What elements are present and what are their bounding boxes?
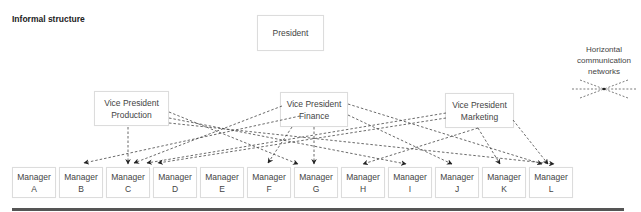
arrow-prod-to-i bbox=[169, 118, 406, 164]
arrow-mkt-to-k bbox=[478, 128, 500, 164]
arrow-mkt-to-l bbox=[513, 120, 548, 164]
arrow-fin-to-c bbox=[134, 106, 282, 163]
arrow-fin-to-j bbox=[348, 115, 452, 164]
connection-arrows bbox=[0, 0, 641, 212]
bottom-rule bbox=[12, 208, 624, 211]
arrow-prod-to-b bbox=[84, 116, 300, 163]
arrow-mkt-to-c bbox=[147, 113, 446, 163]
arrow-mkt-to-h bbox=[363, 128, 478, 164]
